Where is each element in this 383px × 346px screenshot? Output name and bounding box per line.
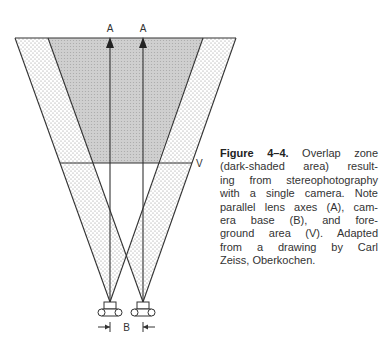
caption-line-3: ing from stereophotography <box>220 174 378 187</box>
caption-line-1: Figure 4–4. Overlap zone <box>220 147 378 160</box>
caption-line-8: from a drawing by Carl <box>220 241 378 254</box>
label-b: B <box>123 322 130 333</box>
label-v: V <box>196 158 203 169</box>
figure-caption: Figure 4–4. Overlap zone (dark-shaded ar… <box>220 147 378 268</box>
caption-line-5: parallel lens axes (A), cam- <box>220 201 378 214</box>
caption-line-4: with a single camera. Note <box>220 187 378 200</box>
label-a-left: A <box>107 23 114 34</box>
label-a-right: A <box>140 23 147 34</box>
figure-number: Figure 4–4. <box>220 147 289 159</box>
camera-left-icon <box>98 302 122 316</box>
caption-line-6: era base (B), and fore- <box>220 214 378 227</box>
camera-right-icon <box>131 302 155 316</box>
caption-line-7: ground area (V). Adapted <box>220 227 378 240</box>
caption-text: Overlap zone <box>289 147 378 159</box>
caption-line-2: (dark-shaded area) result- <box>220 160 378 173</box>
caption-line-9: Zeiss, Oberkochen. <box>220 254 378 267</box>
